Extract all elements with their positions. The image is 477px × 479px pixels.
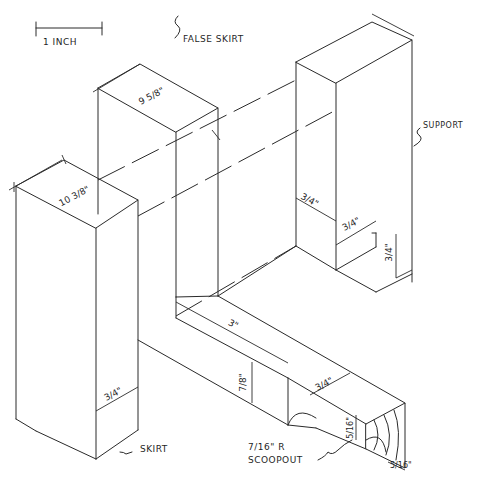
- skirt-leader: [120, 452, 132, 454]
- scale-bar-label: 1 INCH: [43, 38, 77, 47]
- support-label: SUPPORT: [423, 122, 463, 130]
- leg-height-dim: 7/8": [239, 373, 248, 392]
- isometric-drawing: [0, 0, 477, 479]
- scoopout-label-line1: 7/16" R: [248, 443, 285, 452]
- scoopout-label-line2: SCOOPOUT: [248, 456, 303, 465]
- false-skirt-leader: [175, 16, 180, 38]
- end-height-dim: 5/16": [347, 417, 355, 439]
- scoopout-leader: [318, 440, 352, 460]
- support-leader: [414, 128, 421, 146]
- end-width-dim: 5/16": [390, 462, 412, 470]
- false-skirt-label: FALSE SKIRT: [183, 35, 244, 44]
- scale-bar: [36, 22, 102, 36]
- skirt-label: SKIRT: [140, 445, 168, 454]
- support-notch-width-dim: 3/4": [385, 243, 394, 262]
